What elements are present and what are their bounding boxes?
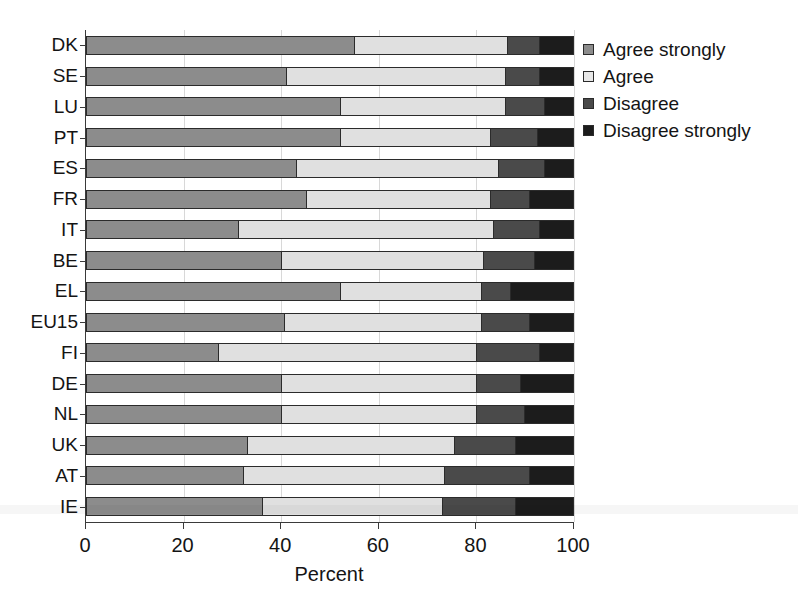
x-tick-100 <box>573 522 574 529</box>
bar-segment-agree-strongly <box>87 37 354 54</box>
y-axis-label-de: DE <box>52 374 78 393</box>
x-tick-0 <box>85 522 86 529</box>
gridline-100 <box>574 30 575 522</box>
bar-segment-disagree-strongly <box>537 129 573 146</box>
legend-swatch-icon <box>583 125 594 136</box>
bar-segment-disagree-strongly <box>529 467 573 484</box>
bar-segment-disagree <box>481 314 530 331</box>
stacked-bar-uk <box>86 436 574 455</box>
bar-segment-disagree-strongly <box>534 252 573 269</box>
y-tick-lu <box>80 107 86 108</box>
bar-segment-agree-strongly <box>87 221 238 238</box>
y-tick-de <box>80 384 86 385</box>
x-tick-20 <box>183 522 184 529</box>
bar-segment-disagree-strongly <box>529 191 573 208</box>
stacked-bar-chart: DKSELUPTESFRITBEELEU15FIDENLUKATIE Perce… <box>0 0 798 605</box>
bar-segment-agree <box>340 283 481 300</box>
stacked-bar-dk <box>86 36 574 55</box>
y-tick-at <box>80 476 86 477</box>
x-axis-label-80: 80 <box>445 533 505 557</box>
bar-segment-disagree-strongly <box>520 375 573 392</box>
x-axis-line <box>85 522 573 523</box>
stacked-bar-be <box>86 251 574 270</box>
bar-segment-agree-strongly <box>87 406 281 423</box>
bar-row <box>86 436 573 455</box>
bar-segment-agree <box>262 498 442 515</box>
bar-segment-disagree-strongly <box>529 314 573 331</box>
y-tick-it <box>80 230 86 231</box>
bar-segment-disagree-strongly <box>515 437 573 454</box>
stacked-bar-el <box>86 282 574 301</box>
bar-segment-agree-strongly <box>87 437 247 454</box>
bar-segment-agree <box>247 437 454 454</box>
bar-segment-disagree <box>490 191 529 208</box>
y-tick-be <box>80 261 86 262</box>
plot-area <box>85 30 573 522</box>
y-axis-labels: DKSELUPTESFRITBEELEU15FIDENLUKATIE <box>0 30 78 522</box>
bar-segment-disagree <box>498 160 544 177</box>
x-axis-label-0: 0 <box>55 533 115 557</box>
legend-item-disagree[interactable]: Disagree <box>583 90 793 117</box>
y-tick-fi <box>80 353 86 354</box>
bar-segment-disagree <box>483 252 534 269</box>
y-axis-label-ie: IE <box>60 497 78 516</box>
bar-segment-agree-strongly <box>87 375 281 392</box>
bar-segment-agree <box>281 406 475 423</box>
y-axis-label-fi: FI <box>61 343 78 362</box>
bar-segment-agree <box>243 467 445 484</box>
bar-segment-disagree-strongly <box>524 406 573 423</box>
y-tick-fr <box>80 199 86 200</box>
legend-item-agree-strongly[interactable]: Agree strongly <box>583 36 793 63</box>
bar-segment-disagree <box>454 437 515 454</box>
bar-segment-agree <box>286 68 505 85</box>
bar-segment-disagree <box>505 98 544 115</box>
bar-segment-agree-strongly <box>87 498 262 515</box>
bar-segment-agree <box>340 129 491 146</box>
bar-segment-disagree <box>442 498 515 515</box>
bar-segment-agree-strongly <box>87 252 281 269</box>
y-tick-es <box>80 168 86 169</box>
x-axis-label-40: 40 <box>250 533 310 557</box>
y-axis-label-uk: UK <box>52 435 78 454</box>
y-axis-label-fr: FR <box>53 189 78 208</box>
y-axis-label-pt: PT <box>54 128 78 147</box>
stacked-bar-fr <box>86 190 574 209</box>
stacked-bar-it <box>86 220 574 239</box>
y-axis-label-nl: NL <box>54 404 78 423</box>
legend-item-disagree-strongly[interactable]: Disagree strongly <box>583 117 793 144</box>
bar-row <box>86 36 573 55</box>
legend-item-agree[interactable]: Agree <box>583 63 793 90</box>
y-axis-label-es: ES <box>53 158 78 177</box>
bar-segment-agree-strongly <box>87 129 340 146</box>
bar-segment-agree <box>281 252 483 269</box>
bar-row <box>86 97 573 116</box>
stacked-bar-eu15 <box>86 313 574 332</box>
bar-segment-disagree-strongly <box>510 283 573 300</box>
bar-segment-disagree-strongly <box>544 98 573 115</box>
bar-segment-disagree <box>490 129 536 146</box>
bar-segment-disagree-strongly <box>539 344 573 361</box>
y-axis-label-lu: LU <box>54 97 78 116</box>
bar-segment-disagree <box>481 283 510 300</box>
bar-segment-disagree <box>476 344 539 361</box>
bar-segment-disagree-strongly <box>539 37 573 54</box>
stacked-bar-pt <box>86 128 574 147</box>
x-axis-label-100: 100 <box>543 533 603 557</box>
y-tick-pt <box>80 138 86 139</box>
bar-segment-disagree <box>505 68 539 85</box>
stacked-bar-de <box>86 374 574 393</box>
bar-segment-disagree-strongly <box>539 68 573 85</box>
y-tick-eu15 <box>80 322 86 323</box>
y-axis-label-it: IT <box>61 220 78 239</box>
bar-row <box>86 220 573 239</box>
bar-row <box>86 67 573 86</box>
y-axis-label-be: BE <box>53 251 78 270</box>
bar-row <box>86 190 573 209</box>
y-axis-label-at: AT <box>55 466 78 485</box>
y-axis-label-el: EL <box>55 281 78 300</box>
bar-row <box>86 128 573 147</box>
bar-segment-agree <box>238 221 493 238</box>
bar-row <box>86 343 573 362</box>
bar-segment-agree <box>340 98 505 115</box>
legend-swatch-icon <box>583 71 594 82</box>
